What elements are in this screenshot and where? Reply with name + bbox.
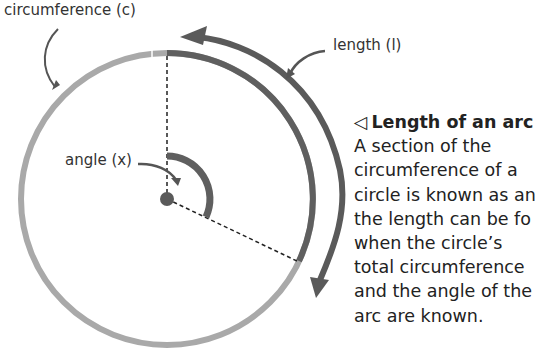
caption-line: the length can be fo [354, 207, 538, 231]
label-length: length (l) [333, 36, 401, 54]
caption-line: circumference of a [354, 158, 538, 182]
caption-line: arc are known. [354, 304, 538, 328]
caption-line: circle is known as an [354, 183, 538, 207]
caption-line: A section of the [354, 134, 538, 158]
center-point [160, 192, 174, 206]
caption: ◁Length of an arc A section of the circu… [354, 110, 538, 328]
length-arrow-head-start [180, 26, 207, 45]
angle-pointer [138, 164, 176, 180]
length-arrow-head-end [310, 277, 329, 298]
label-angle: angle (x) [65, 151, 132, 169]
angle-arc [167, 156, 210, 217]
caption-line: when the circle’s [354, 231, 538, 255]
caption-title: Length of an arc [371, 112, 533, 132]
caption-line: total circumference [354, 255, 538, 279]
length-arrow [197, 37, 342, 280]
label-circumference: circumference (c) [4, 1, 136, 19]
caption-line: and the angle of the [354, 279, 538, 303]
radius-angled-dashed [167, 199, 299, 262]
triangle-left-icon: ◁ [354, 112, 367, 132]
circumference-pointer [45, 29, 58, 87]
length-pointer [290, 51, 325, 74]
